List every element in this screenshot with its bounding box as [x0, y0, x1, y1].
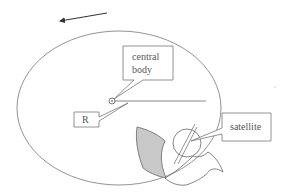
satellite-axis-line-2 — [178, 127, 197, 164]
radius-callout: R — [74, 103, 128, 127]
satellite-callout: satellite — [191, 113, 271, 141]
central-body-label-line2: body — [132, 64, 152, 75]
orbit-direction-arrow — [60, 13, 107, 21]
satellite-label: satellite — [230, 121, 262, 132]
satellite-wing-shape — [165, 152, 223, 185]
solar-panel-shape — [136, 127, 166, 178]
satellite-axis-line — [174, 124, 195, 164]
central-body-callout: central body — [114, 46, 173, 99]
orbit-diagram: central body R satellite — [0, 0, 286, 195]
radius-label: R — [82, 114, 89, 125]
central-body-dot — [111, 100, 113, 102]
satellite-icon — [173, 129, 201, 157]
stray-mark — [274, 86, 275, 87]
central-body-label-line1: central — [132, 51, 159, 62]
